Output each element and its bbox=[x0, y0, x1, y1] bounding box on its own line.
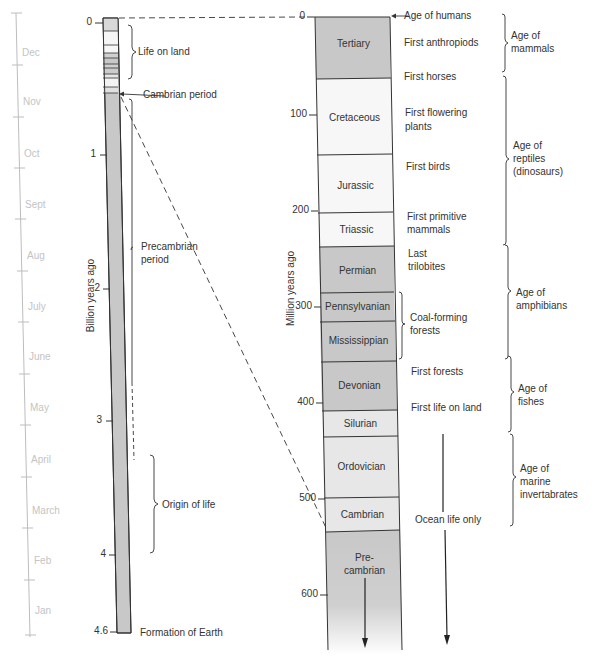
tick-0: 0 bbox=[62, 16, 92, 27]
period-precambrian-2: cambrian bbox=[327, 565, 402, 577]
period-ordovician: Ordovician bbox=[324, 461, 399, 473]
formation-of-earth-label: Formation of Earth bbox=[140, 626, 223, 639]
month-june: June bbox=[29, 351, 51, 362]
age-marine-2: marine bbox=[520, 475, 551, 488]
age-marine-3: invertabrates bbox=[520, 488, 578, 501]
origin-of-life-label: Origin of life bbox=[162, 498, 215, 511]
age-reptiles-2: reptiles bbox=[513, 152, 545, 165]
tick-400-my: 400 bbox=[284, 396, 314, 407]
age-mammals-1: Age of bbox=[511, 29, 540, 42]
event-last-trilobites-1: Last bbox=[408, 247, 427, 260]
event-first-primitive-2: mammals bbox=[407, 223, 450, 236]
period-triassic: Triassic bbox=[319, 224, 394, 236]
month-july: July bbox=[28, 301, 46, 312]
age-reptiles-3: (dinosaurs) bbox=[513, 165, 563, 178]
period-silurian: Silurian bbox=[323, 418, 398, 430]
event-coal-forming-1: Coal-forming bbox=[410, 311, 467, 324]
event-first-anthropiods: First anthropiods bbox=[404, 36, 478, 49]
age-marine-1: Age of bbox=[520, 462, 549, 475]
month-nov: Nov bbox=[23, 96, 41, 107]
million-axis-title: Million years ago bbox=[285, 239, 296, 339]
event-first-flowering-1: First flowering bbox=[405, 106, 467, 119]
period-jurassic: Jurassic bbox=[318, 180, 393, 192]
tick-600-my: 600 bbox=[288, 588, 318, 599]
tick-4: 4 bbox=[76, 548, 106, 559]
month-jan: Jan bbox=[35, 605, 51, 616]
period-precambrian-1: Pre- bbox=[327, 552, 402, 564]
age-amphibians-2: amphibians bbox=[516, 299, 567, 312]
age-fishes-2: fishes bbox=[518, 395, 544, 408]
tick-3: 3 bbox=[72, 414, 102, 425]
period-permian: Permian bbox=[320, 265, 395, 277]
month-april: April bbox=[31, 454, 51, 465]
tick-500-my: 500 bbox=[286, 492, 316, 503]
age-fishes-1: Age of bbox=[518, 382, 547, 395]
month-dec: Dec bbox=[22, 47, 40, 58]
event-ocean-life-only: Ocean life only bbox=[414, 513, 482, 526]
tick-200-my: 200 bbox=[279, 204, 309, 215]
period-mississippian: Mississippian bbox=[321, 335, 396, 347]
precambrian-period-label-1: Precambrian bbox=[141, 240, 198, 253]
tick-0-my: 0 bbox=[275, 10, 305, 21]
tick-1: 1 bbox=[66, 148, 96, 159]
tick-100-my: 100 bbox=[277, 108, 307, 119]
tick-4-6: 4.6 bbox=[78, 625, 108, 636]
event-age-of-humans: Age of humans bbox=[404, 9, 471, 22]
period-devonian: Devonian bbox=[322, 380, 397, 392]
month-oct: Oct bbox=[24, 148, 40, 159]
period-cambrian: Cambrian bbox=[325, 509, 400, 521]
event-last-trilobites-2: trilobites bbox=[408, 260, 445, 273]
event-coal-forming-2: forests bbox=[410, 324, 440, 337]
billion-axis-title: Billion years ago bbox=[85, 246, 96, 346]
precambrian-period-label-2: period bbox=[141, 253, 169, 266]
age-amphibians-1: Age of bbox=[516, 286, 545, 299]
billion-year-bar bbox=[95, 18, 165, 633]
event-first-forests: First forests bbox=[411, 365, 463, 378]
month-may: May bbox=[30, 402, 49, 413]
event-first-birds: First birds bbox=[406, 160, 450, 173]
age-reptiles-1: Age of bbox=[513, 139, 542, 152]
event-first-primitive-1: First primitive bbox=[407, 210, 466, 223]
age-mammals-2: mammals bbox=[511, 42, 554, 55]
period-cretaceous: Cretaceous bbox=[317, 112, 392, 124]
month-sept: Sept bbox=[25, 199, 46, 210]
month-march: March bbox=[32, 505, 60, 516]
cambrian-period-label: Cambrian period bbox=[143, 88, 217, 101]
event-first-horses: First horses bbox=[404, 70, 456, 83]
period-pennsylvanian: Pennsylvanian bbox=[320, 301, 395, 313]
period-tertiary: Tertiary bbox=[316, 38, 391, 50]
month-feb: Feb bbox=[34, 555, 51, 566]
life-on-land-label: Life on land bbox=[138, 45, 190, 58]
event-first-flowering-2: plants bbox=[405, 120, 432, 133]
event-first-life-on-land: First life on land bbox=[411, 401, 482, 414]
month-aug: Aug bbox=[27, 250, 45, 261]
